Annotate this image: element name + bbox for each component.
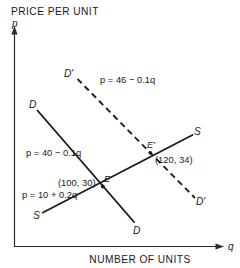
- supply-demand-chart: PRICE PER UNIT p NUMBER OF UNITS q D D D…: [0, 0, 240, 268]
- demand-bottom-label: D: [133, 225, 141, 236]
- demand-line: [38, 111, 135, 223]
- point-e-label: E: [104, 174, 111, 184]
- x-axis-variable: q: [228, 241, 234, 252]
- y-axis-variable: p: [11, 18, 18, 29]
- demand-curve-d: [38, 111, 135, 223]
- point-e-prime-label: E': [147, 140, 156, 150]
- point-e-prime-coordinates: (120, 34): [155, 154, 193, 165]
- demand-top-label: D: [29, 99, 37, 110]
- x-axis-title: NUMBER OF UNITS: [89, 254, 190, 265]
- chart-canvas: PRICE PER UNIT p NUMBER OF UNITS q D D D…: [0, 0, 240, 268]
- demand-shift-equation: p = 46 − 0.1q: [100, 74, 155, 85]
- equilibrium-point-e-prime-marker: [148, 151, 152, 155]
- demand-shift-bottom-label: D': [196, 196, 206, 207]
- point-e-coordinates: (100, 30): [58, 177, 96, 188]
- supply-top-label: S: [194, 126, 201, 137]
- supply-bottom-label: S: [33, 210, 40, 221]
- x-axis-arrow-icon: [216, 243, 225, 249]
- supply-equation: p = 10 + 0.2q: [22, 189, 77, 200]
- axis-group: [11, 26, 224, 250]
- y-axis-title: PRICE PER UNIT: [11, 6, 99, 17]
- demand-shift-top-label: D': [64, 68, 74, 79]
- equilibrium-point-e-marker: [101, 185, 105, 189]
- demand-equation: p = 40 − 0.1q: [26, 147, 81, 158]
